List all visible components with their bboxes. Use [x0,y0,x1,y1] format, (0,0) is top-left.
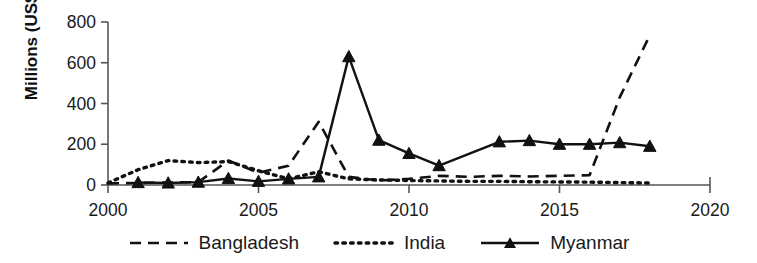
y-tick-label: 400 [67,94,96,114]
dotted-line-swatch [333,235,395,251]
series-line-india [108,161,650,183]
chart-figure: Millions (US$) 0200400600800 20002005201… [0,0,757,263]
chart-legend: BangladeshIndiaMyanmar [0,222,757,263]
marker-triangle [373,134,385,145]
legend-label: Myanmar [550,233,629,252]
legend-label: Bangladesh [199,233,299,252]
solid-line-triangle-swatch [479,235,541,251]
y-tick-label: 600 [67,53,96,73]
x-tick-label: 2000 [89,200,128,220]
legend-item-india[interactable]: India [333,233,445,252]
legend-item-myanmar[interactable]: Myanmar [479,233,629,252]
plot-area: 0200400600800 20002005201020152020 [0,0,757,222]
legend-item-bangladesh[interactable]: Bangladesh [128,233,299,252]
x-tick-label: 2020 [691,200,730,220]
series-line-myanmar [138,57,650,183]
marker-triangle [343,50,355,61]
x-tick-label: 2010 [390,200,429,220]
x-tick-labels: 20002005201020152020 [89,200,730,220]
y-tick-labels: 0200400600800 [67,12,96,195]
legend-label: India [404,233,445,252]
y-tick-label: 800 [67,12,96,32]
marker-triangle [403,147,415,158]
axis-lines [101,22,710,193]
dashed-line-swatch [128,235,190,251]
x-tick-label: 2005 [239,200,278,220]
y-tick-label: 200 [67,134,96,154]
y-tick-label: 0 [86,175,96,195]
data-series [108,35,656,188]
x-tick-label: 2015 [540,200,579,220]
